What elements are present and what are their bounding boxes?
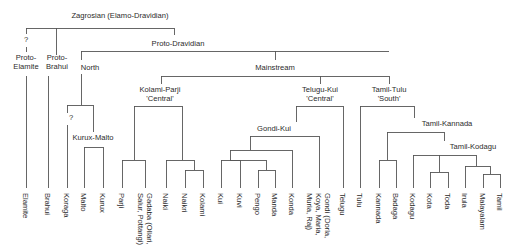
node-label-tamil-tulu: Tamil-Tulu'South' [372, 85, 407, 103]
leaf-label: Gondi (Dorla,Koya, Maria,Muria, Raj) [305, 193, 332, 238]
node-label-telugu-kui: Telugu-Kui'Central' [302, 85, 338, 103]
leaf-label: Badaga [391, 193, 400, 220]
node-label-tamil-kannada: Tamil-Kannada [422, 119, 473, 128]
leaf-label: Kuvi [235, 193, 244, 208]
leaf-label: Irula [460, 193, 469, 209]
leaf-label: Pengo [253, 193, 262, 215]
leaf-label: Konda [287, 193, 296, 216]
leaf-label: Kui [216, 193, 225, 204]
leaf-label: Telugu [338, 193, 347, 215]
leaf-label: Koraga [62, 193, 71, 218]
leaf-label: Kodagu [408, 193, 417, 219]
leaf-label: Kolami [198, 193, 207, 217]
node-label-gondi-kui: Gondi-Kui [257, 124, 291, 133]
leaf-label: Gadaba (Ollari,Salur, Pottangi) [136, 193, 154, 245]
leaf-language-labels: ElamiteBrahuiKoragaMaltoKuruxParjiGadaba… [21, 193, 504, 245]
leaf-label: Malayalam [478, 193, 487, 230]
tree-edges [26, 28, 500, 188]
leaf-label: Tulu [355, 193, 364, 208]
leaf-label: Manda [270, 193, 279, 217]
node-label-proto-elamite: Proto-Elamite [13, 53, 38, 71]
node-label-north: North [81, 63, 100, 72]
node-label-zagrosian: Zagrosian (Elamo-Dravidian) [71, 11, 169, 20]
node-label-proto-dravidian: Proto-Dravidian [152, 39, 205, 48]
language-family-tree-diagram: Zagrosian (Elamo-Dravidian)?Proto-Elamit… [0, 0, 516, 249]
leaf-label: Kota [425, 193, 434, 209]
internal-node-labels: Zagrosian (Elamo-Dravidian)?Proto-Elamit… [13, 11, 496, 151]
leaf-label: Brahui [43, 193, 52, 215]
leaf-label: Naiki [161, 193, 170, 210]
node-label-kurux-malto: Kurux-Malto [73, 133, 114, 142]
node-label-proto-brahui: Proto-Brahui [46, 53, 68, 71]
leaf-label: Malto [79, 193, 88, 212]
leaf-label: Parji [117, 193, 126, 209]
node-label-q2: ? [69, 113, 73, 122]
leaf-label: Naikri [180, 193, 189, 213]
leaf-label: Toda [443, 193, 452, 210]
leaf-label: Tamil [495, 193, 504, 211]
node-label-kolami-parji: Kolami-Parji'Central' [140, 85, 181, 103]
node-label-mainstream: Mainstream [255, 63, 295, 72]
leaf-label: Kannada [374, 193, 383, 224]
node-label-q1: ? [24, 35, 28, 44]
leaf-label: Kurux [98, 193, 107, 213]
leaf-label: Elamite [21, 193, 30, 218]
node-label-tamil-kodagu: Tamil-Kodagu [450, 142, 496, 151]
